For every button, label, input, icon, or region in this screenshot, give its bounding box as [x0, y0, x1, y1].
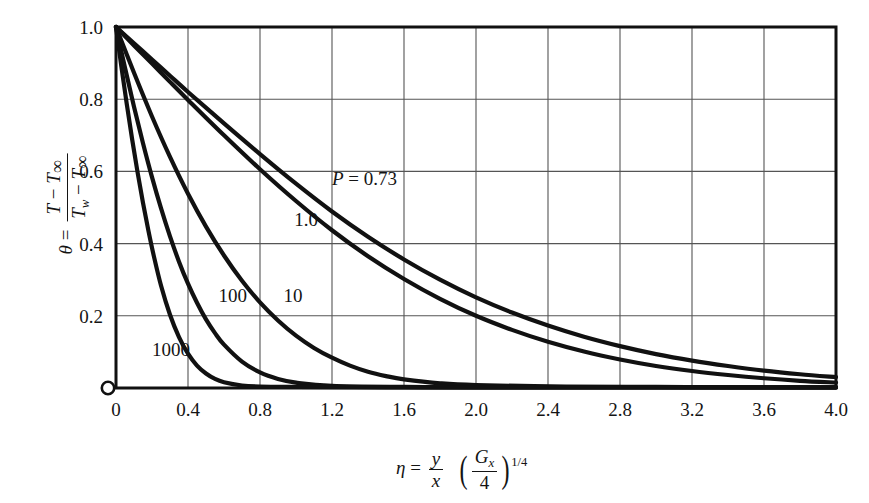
x-tick-label: 0 [111, 399, 121, 420]
y-axis-denominator: Tw − T∞ [68, 153, 92, 222]
x-axis-tick-labels: 00.40.81.21.62.02.42.83.23.64.0 [111, 399, 848, 420]
close-paren: ) [502, 450, 510, 489]
x-tick-label: 2.4 [536, 399, 560, 420]
x-axis-y-over-x: y x [429, 449, 443, 490]
x-axis-grashof-denominator: 4 [472, 472, 497, 492]
y-tick-label: 0.8 [79, 89, 103, 110]
y-tick-label: 1.0 [79, 17, 103, 38]
x-tick-label: 2.0 [464, 399, 488, 420]
x-tick-label: 3.2 [680, 399, 704, 420]
origin-marker [102, 382, 114, 394]
open-paren: ( [459, 450, 467, 489]
x-tick-label: 2.8 [608, 399, 632, 420]
curve-label-1000: 1000 [152, 339, 190, 360]
x-tick-label: 3.6 [752, 399, 776, 420]
x-axis-label: η = y x ( Gx 4 )1/4 [396, 447, 527, 492]
y-axis-theta-symbol: θ [55, 245, 76, 254]
x-axis-equals: = [410, 457, 421, 478]
chart-canvas: 00.40.81.21.62.02.42.83.23.64.0 0.20.40.… [0, 0, 869, 503]
curve-label-10: 10 [283, 285, 302, 306]
curve-label-1-0: 1.0 [294, 209, 318, 230]
y-tick-label: 0.2 [79, 306, 103, 327]
y-axis-label: θ = T − T∞ Tw − T∞ [44, 150, 92, 254]
x-tick-label: 0.4 [176, 399, 200, 420]
x-axis-eta-symbol: η [396, 457, 405, 478]
origin-open-circle-marker [102, 382, 114, 394]
y-axis-fraction: T − T∞ Tw − T∞ [44, 153, 92, 222]
x-axis-exponent: 1/4 [511, 455, 527, 469]
x-tick-label: 1.6 [392, 399, 416, 420]
x-tick-label: 4.0 [824, 399, 848, 420]
x-axis-numerator: y [429, 449, 443, 470]
curve-label-100: 100 [219, 285, 248, 306]
y-axis-equals: = [55, 230, 76, 241]
x-tick-label: 1.2 [320, 399, 344, 420]
x-axis-denominator: x [429, 470, 443, 490]
y-axis-label-wrapper: θ = T − T∞ Tw − T∞ [0, 150, 60, 350]
x-tick-label: 0.8 [248, 399, 272, 420]
curve-label-p-0-73: P = 0.73 [331, 168, 397, 189]
figure-container: 00.40.81.21.62.02.42.83.23.64.0 0.20.40.… [0, 0, 869, 503]
x-axis-grashof-fraction: Gx 4 [472, 447, 497, 492]
gridlines [116, 27, 836, 388]
y-axis-numerator: T − T∞ [44, 153, 68, 222]
x-axis-grashof-numerator: Gx [472, 447, 497, 472]
